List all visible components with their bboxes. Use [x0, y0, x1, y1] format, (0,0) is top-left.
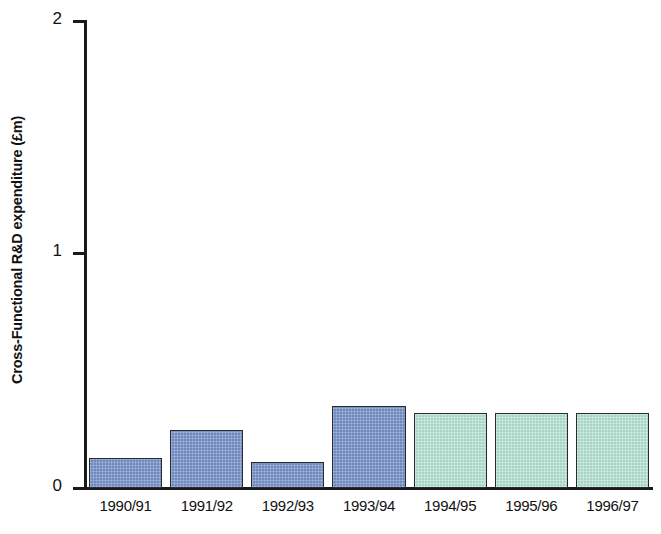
x-tick-label-1993-94: 1993/94: [332, 497, 405, 514]
x-tick-label-1992-93: 1992/93: [251, 497, 324, 514]
x-tick-label-1996-97: 1996/97: [576, 497, 649, 514]
bar-chart: Cross-Functional R&D expenditure (£m) 2 …: [0, 0, 661, 534]
bar-1991-92: [170, 430, 243, 488]
bar-1992-93: [251, 462, 324, 488]
bar-1996-97: [576, 413, 649, 488]
x-tick-label-1990-91: 1990/91: [89, 497, 162, 514]
bar-1990-91: [89, 458, 162, 488]
x-tick-label-1995-96: 1995/96: [495, 497, 568, 514]
bar-1993-94: [332, 406, 405, 488]
plot-area: 2 1 0 1990/91 1991/92 1992/93 1993/94 19…: [0, 0, 661, 534]
bar-1995-96: [495, 413, 568, 488]
x-tick-label-1994-95: 1994/95: [414, 497, 487, 514]
bars-layer: [0, 0, 661, 534]
bar-1994-95: [414, 413, 487, 488]
x-tick-label-1991-92: 1991/92: [170, 497, 243, 514]
